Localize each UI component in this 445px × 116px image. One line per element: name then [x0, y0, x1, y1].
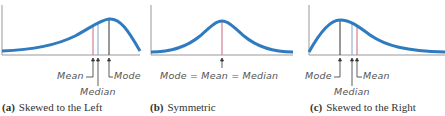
distribution-curve — [309, 20, 445, 52]
indicator-arrows — [334, 58, 362, 86]
distribution-curve — [2, 19, 140, 51]
indicator-arrows — [221, 58, 224, 68]
mode-label: Mode — [114, 70, 141, 81]
panel-symmetric: Mode = Mean = Median (b)Symmetric — [148, 0, 296, 116]
skewed-left-diagram — [0, 0, 148, 116]
mode-mean-median-label: Mode = Mean = Median — [160, 70, 278, 81]
mode-label: Mode — [305, 70, 332, 81]
median-label: Median — [334, 86, 370, 97]
caption-c: (c)Skewed to the Right — [310, 101, 416, 113]
panel-skewed-right: Mode Mean Median (c)Skewed to the Right — [296, 0, 444, 116]
caption-a: (a)Skewed to the Left — [2, 101, 102, 113]
caption-b: (b)Symmetric — [150, 101, 216, 113]
median-label: Median — [80, 86, 116, 97]
symmetric-diagram — [148, 0, 296, 116]
mean-label: Mean — [363, 70, 390, 81]
indicator-arrows — [86, 58, 113, 86]
skewed-right-diagram — [296, 0, 445, 116]
mean-label: Mean — [57, 70, 84, 81]
panel-skewed-left: Mean Mode Median (a)Skewed to the Left — [0, 0, 148, 116]
